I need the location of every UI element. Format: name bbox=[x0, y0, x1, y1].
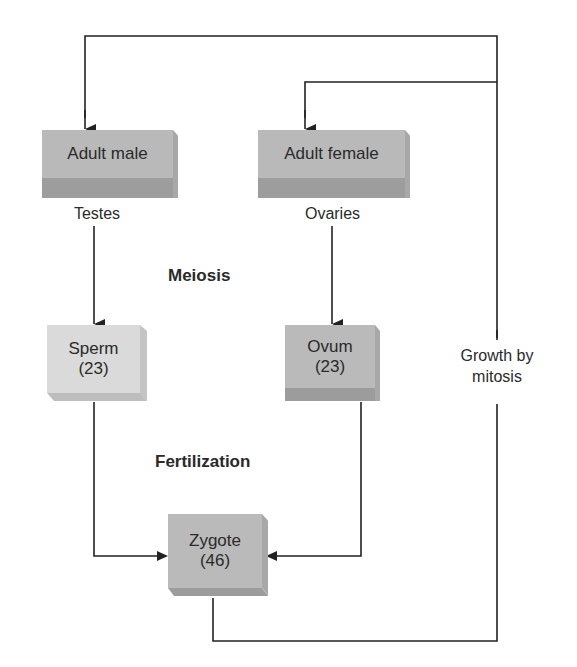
testes-label: Testes bbox=[52, 205, 142, 223]
zygote-chromosome-count: (46) bbox=[200, 551, 230, 571]
ovum-chromosome-count: (23) bbox=[315, 357, 345, 377]
sperm-box: Sperm (23) bbox=[47, 325, 147, 403]
adult-male-box: Adult male bbox=[42, 130, 178, 198]
ovaries-label: Ovaries bbox=[285, 205, 380, 223]
ovum-box: Ovum (23) bbox=[285, 325, 380, 401]
fertilization-label: Fertilization bbox=[155, 452, 285, 472]
adult-female-box: Adult female bbox=[258, 130, 410, 198]
sperm-chromosome-count: (23) bbox=[78, 359, 108, 379]
growth-label-line1: Growth by bbox=[447, 345, 547, 366]
sperm-label: Sperm bbox=[68, 339, 118, 359]
growth-label: Growth by mitosis bbox=[447, 345, 547, 387]
zygote-label: Zygote bbox=[189, 531, 241, 551]
meiosis-label: Meiosis bbox=[168, 266, 258, 286]
adult-female-label: Adult female bbox=[258, 130, 405, 178]
adult-male-label: Adult male bbox=[42, 130, 173, 178]
zygote-box: Zygote (46) bbox=[168, 514, 268, 598]
ovum-label: Ovum bbox=[307, 337, 352, 357]
growth-label-line2: mitosis bbox=[447, 366, 547, 387]
